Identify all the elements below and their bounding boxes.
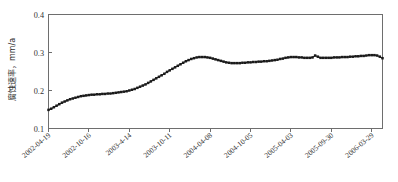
y-axis-ticks: 0.10.20.30.4 <box>34 11 52 134</box>
data-point-marker <box>274 59 277 62</box>
data-point-marker <box>341 56 344 59</box>
plot-frame <box>49 15 383 129</box>
x-tick-label: 2002-10-16 <box>60 130 92 159</box>
y-tick-label: 0.3 <box>34 49 44 58</box>
data-point-marker <box>160 74 163 77</box>
data-point-marker <box>292 56 295 59</box>
data-point-marker <box>179 63 182 66</box>
data-point-marker <box>147 82 150 85</box>
data-point-marker <box>209 57 212 60</box>
data-point-marker <box>327 57 330 60</box>
data-point-marker <box>117 91 120 94</box>
data-point-marker <box>120 91 123 94</box>
data-point-marker <box>314 54 317 57</box>
data-point-marker <box>271 59 274 62</box>
data-point-marker <box>150 80 153 83</box>
data-point-marker <box>238 62 241 65</box>
data-point-marker <box>85 94 88 97</box>
data-point-marker <box>163 73 166 76</box>
data-point-marker <box>63 100 66 103</box>
data-point-marker <box>290 56 293 59</box>
data-point-marker <box>217 59 220 62</box>
y-axis-label-text: 腐蚀速率，mm/a <box>7 38 17 101</box>
data-point-marker <box>71 97 74 100</box>
data-point-marker <box>244 62 247 64</box>
data-point-marker <box>203 56 206 59</box>
data-point-marker <box>144 83 147 86</box>
data-point-marker <box>77 96 80 99</box>
data-point-marker <box>107 92 110 95</box>
data-point-marker <box>309 57 312 60</box>
data-point-marker <box>53 106 56 109</box>
data-point-marker <box>133 88 136 91</box>
data-point-marker <box>195 56 198 59</box>
data-point-marker <box>298 56 301 59</box>
data-point-marker <box>128 89 131 92</box>
data-point-marker <box>109 92 112 95</box>
y-tick-label: 0.2 <box>34 87 44 96</box>
data-point-marker <box>279 58 282 61</box>
data-point-marker <box>284 57 287 60</box>
data-point-marker <box>74 96 77 99</box>
data-point-marker <box>381 57 384 60</box>
data-point-marker <box>265 60 268 63</box>
data-point-marker <box>206 56 209 59</box>
data-point-marker <box>230 62 233 65</box>
data-point-marker <box>214 58 217 61</box>
data-point-marker <box>276 58 279 61</box>
x-tick-label: 2005-09-30 <box>303 130 335 159</box>
data-point-marker <box>61 101 64 104</box>
data-point-marker <box>101 93 104 96</box>
data-point-marker <box>338 56 341 59</box>
y-tick-label: 0.4 <box>34 11 44 20</box>
data-point-marker <box>303 57 306 60</box>
data-point-marker <box>330 57 333 60</box>
data-point-marker <box>360 55 363 58</box>
data-point-marker <box>247 61 250 64</box>
data-point-marker <box>319 57 322 60</box>
data-point-marker <box>152 79 155 82</box>
data-point-marker <box>260 60 263 63</box>
x-tick-label: 2006-03-29 <box>343 130 375 159</box>
data-point-marker <box>93 93 96 96</box>
series-line <box>49 55 383 110</box>
x-tick-label: 2003-10-11 <box>141 130 173 159</box>
data-point-marker <box>287 56 290 59</box>
data-point-marker <box>55 104 58 107</box>
data-point-marker <box>352 55 355 58</box>
data-point-marker <box>365 54 368 57</box>
data-point-marker <box>187 59 190 62</box>
data-point-marker <box>376 54 379 57</box>
data-point-marker <box>104 93 107 96</box>
data-point-marker <box>182 62 185 64</box>
data-point-marker <box>311 56 314 59</box>
data-point-marker <box>368 54 371 57</box>
data-point-marker <box>354 55 357 58</box>
data-point-marker <box>166 71 169 74</box>
data-point-marker <box>185 60 188 63</box>
data-point-marker <box>236 62 239 65</box>
data-point-marker <box>69 98 72 101</box>
corrosion-rate-line-chart: 0.10.20.30.4 2002-04-192002-10-162003-4-… <box>0 0 398 182</box>
data-point-marker <box>142 84 145 87</box>
data-point-marker <box>131 88 134 91</box>
data-point-marker <box>222 60 225 63</box>
y-axis-label: 腐蚀速率，mm/a <box>7 38 17 101</box>
data-point-marker <box>349 55 352 58</box>
data-point-marker <box>252 61 255 64</box>
data-point-marker <box>346 56 349 59</box>
data-point-marker <box>171 68 174 71</box>
data-point-marker <box>373 54 376 57</box>
data-point-marker <box>96 93 99 96</box>
data-point-marker <box>228 62 231 64</box>
data-point-marker <box>125 90 128 93</box>
data-point-marker <box>233 62 236 65</box>
data-point-marker <box>257 60 260 63</box>
data-point-marker <box>335 56 338 59</box>
data-point-marker <box>220 60 223 63</box>
data-point-marker <box>362 55 365 58</box>
data-point-marker <box>174 66 177 69</box>
data-point-marker <box>317 55 320 58</box>
data-point-marker <box>193 57 196 60</box>
data-point-marker <box>212 57 215 60</box>
